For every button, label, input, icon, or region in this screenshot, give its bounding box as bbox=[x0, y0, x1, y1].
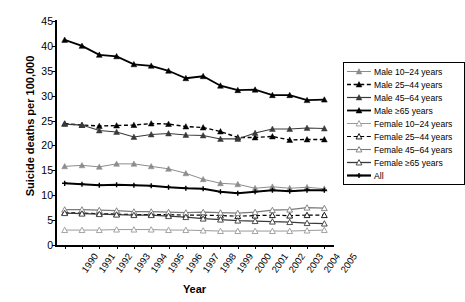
series-layer bbox=[56, 21, 333, 245]
y-tick-label: 5 bbox=[47, 214, 53, 226]
x-tick-mark bbox=[134, 245, 135, 249]
x-tick-label: 1996 bbox=[183, 251, 204, 275]
x-tick-mark bbox=[272, 245, 273, 249]
x-tick-label: 1991 bbox=[96, 251, 117, 275]
legend-item-1[interactable]: Male 25–44 years bbox=[346, 78, 462, 91]
x-tick-mark bbox=[65, 245, 66, 249]
x-tick-label: 1999 bbox=[234, 251, 255, 275]
legend-item-label: Female 25–44 years bbox=[372, 132, 452, 142]
legend-item-0[interactable]: Male 10–24 years bbox=[346, 65, 462, 78]
x-tick-mark bbox=[324, 245, 325, 249]
legend-item-4[interactable]: Female 10–24 years bbox=[346, 117, 462, 130]
x-tick-label: 2002 bbox=[286, 251, 307, 275]
x-tick-mark bbox=[82, 245, 83, 249]
legend-key-icon bbox=[346, 117, 372, 130]
legend-item-3[interactable]: Male ≥65 years bbox=[346, 104, 462, 117]
data-point bbox=[183, 186, 188, 191]
legend-key-icon bbox=[346, 78, 372, 91]
x-tick-label: 1994 bbox=[148, 251, 169, 275]
data-point bbox=[114, 182, 119, 187]
x-tick-mark bbox=[220, 245, 221, 249]
legend-item-label: Female ≥65 years bbox=[372, 158, 443, 168]
series-3 bbox=[62, 37, 327, 103]
series-0 bbox=[62, 161, 327, 191]
y-tick-label: 45 bbox=[41, 15, 53, 27]
x-axis-title: Year bbox=[56, 283, 333, 295]
y-tick-label: 15 bbox=[41, 164, 53, 176]
data-point bbox=[201, 186, 206, 191]
x-tick-label: 1990 bbox=[79, 251, 100, 275]
legend-item-8[interactable]: All bbox=[346, 169, 462, 182]
series-line bbox=[65, 124, 325, 140]
y-tick-label: 20 bbox=[41, 139, 53, 151]
x-tick-label: 2005 bbox=[338, 251, 359, 275]
legend-item-label: Male 10–24 years bbox=[372, 67, 442, 77]
series-line bbox=[65, 40, 325, 100]
series-4 bbox=[62, 227, 327, 234]
y-tick-label: 0 bbox=[47, 239, 53, 251]
legend-key-icon bbox=[346, 130, 372, 143]
x-tick-mark bbox=[307, 245, 308, 249]
y-tick-label: 40 bbox=[41, 40, 53, 52]
x-tick-label: 1993 bbox=[131, 251, 152, 275]
y-tick-label: 25 bbox=[41, 115, 53, 127]
legend-item-label: Female 45–64 years bbox=[372, 145, 452, 155]
x-tick-label: 2003 bbox=[304, 251, 325, 275]
series-line bbox=[65, 208, 325, 213]
legend-key-icon bbox=[346, 156, 372, 169]
x-axis-line bbox=[55, 245, 334, 247]
legend-item-label: Male ≥65 years bbox=[372, 106, 433, 116]
legend-item-label: Male 25–44 years bbox=[372, 80, 442, 90]
legend-item-label: Female 10–24 years bbox=[372, 119, 452, 129]
data-point bbox=[149, 183, 154, 188]
series-line bbox=[65, 124, 325, 139]
series-line bbox=[65, 213, 325, 223]
x-tick-mark bbox=[255, 245, 256, 249]
legend-item-2[interactable]: Male 45–64 years bbox=[346, 91, 462, 104]
data-point bbox=[97, 183, 102, 188]
y-tick-label: 35 bbox=[41, 65, 53, 77]
y-tick-label: 10 bbox=[41, 189, 53, 201]
data-point bbox=[235, 191, 240, 196]
legend-item-5[interactable]: Female 25–44 years bbox=[346, 130, 462, 143]
data-point bbox=[62, 181, 67, 186]
y-tick-label: 30 bbox=[41, 90, 53, 102]
legend-key-icon bbox=[346, 143, 372, 156]
legend-key-icon bbox=[346, 65, 372, 78]
data-point bbox=[79, 182, 84, 187]
x-tick-mark bbox=[290, 245, 291, 249]
x-tick-label: 1995 bbox=[165, 251, 186, 275]
x-tick-mark bbox=[169, 245, 170, 249]
plot-area: 051015202530354045 199019911992199319941… bbox=[56, 21, 333, 245]
series-line bbox=[65, 230, 325, 231]
x-tick-label: 2004 bbox=[321, 251, 342, 275]
x-tick-mark bbox=[151, 245, 152, 249]
x-tick-mark bbox=[117, 245, 118, 249]
legend-item-7[interactable]: Female ≥65 years bbox=[346, 156, 462, 169]
x-tick-mark bbox=[238, 245, 239, 249]
x-tick-label: 2000 bbox=[252, 251, 273, 275]
y-axis-title: Suicide deaths per 100,000 bbox=[24, 26, 36, 226]
legend-item-label: Male 45–64 years bbox=[372, 93, 442, 103]
data-point bbox=[131, 183, 136, 188]
legend-key-icon bbox=[346, 104, 372, 117]
legend-key-icon bbox=[346, 169, 372, 182]
x-tick-mark bbox=[99, 245, 100, 249]
x-tick-label: 2001 bbox=[269, 251, 290, 275]
x-tick-mark bbox=[186, 245, 187, 249]
legend-item-label: All bbox=[372, 171, 384, 181]
x-tick-label: 1997 bbox=[200, 251, 221, 275]
data-point bbox=[218, 189, 223, 194]
chart-legend: Male 10–24 yearsMale 25–44 yearsMale 45–… bbox=[343, 62, 465, 185]
legend-item-6[interactable]: Female 45–64 years bbox=[346, 143, 462, 156]
x-tick-mark bbox=[203, 245, 204, 249]
legend-key-icon bbox=[346, 91, 372, 104]
x-tick-label: 1992 bbox=[113, 251, 134, 275]
x-tick-label: 1998 bbox=[217, 251, 238, 275]
data-point bbox=[166, 185, 171, 190]
series-2 bbox=[62, 121, 327, 141]
